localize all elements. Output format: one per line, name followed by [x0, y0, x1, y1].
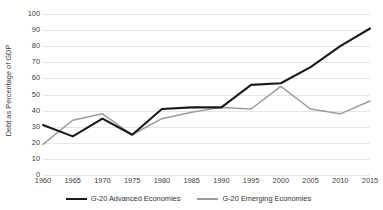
y-tick-label: 40: [18, 107, 40, 114]
y-axis-title-label: Debt as Percentage of GDP: [5, 44, 14, 136]
series-line: [43, 86, 370, 144]
legend-entry: G-20 Advanced Economies: [66, 195, 181, 202]
legend-line-swatch: [197, 198, 218, 200]
legend-label: G-20 Emerging Economies: [222, 195, 311, 202]
y-tick-label: 20: [18, 139, 40, 146]
y-tick-label: 30: [18, 123, 40, 130]
y-axis-tick-labels: 0102030405060708090100: [18, 14, 40, 175]
series-line: [43, 28, 370, 136]
legend-label: G-20 Advanced Economies: [91, 195, 181, 202]
legend-line-swatch: [66, 198, 87, 200]
y-tick-label: 60: [18, 75, 40, 82]
y-tick-label: 90: [18, 26, 40, 33]
y-tick-label: 70: [18, 59, 40, 66]
y-tick-label: 10: [18, 155, 40, 162]
chart-legend: G-20 Advanced EconomiesG-20 Emerging Eco…: [0, 190, 377, 208]
x-axis-tick-labels: 1960196519701975198019851990199520002005…: [43, 177, 370, 189]
gridline: [43, 175, 370, 176]
y-tick-label: 80: [18, 42, 40, 49]
y-axis-title: Debt as Percentage of GDP: [0, 0, 18, 180]
plot-area: [43, 14, 370, 175]
x-tick-label: 2015: [350, 177, 383, 184]
legend-entry: G-20 Emerging Economies: [197, 195, 311, 202]
series-layer: [43, 14, 370, 175]
y-tick-label: 100: [18, 10, 40, 17]
y-tick-label: 50: [18, 91, 40, 98]
